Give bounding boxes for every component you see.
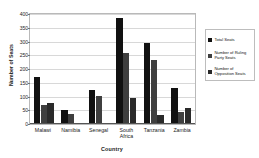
bar xyxy=(116,18,122,124)
bar xyxy=(171,88,177,124)
bar-group xyxy=(140,14,168,124)
y-tick-label: 150 xyxy=(20,80,28,86)
legend-swatch-icon xyxy=(208,70,212,74)
plot-area: 050100150200250300350400 xyxy=(29,13,196,125)
bar xyxy=(144,43,150,124)
x-tick-label: Namibia xyxy=(57,127,85,139)
bar xyxy=(123,53,129,125)
legend-swatch-icon xyxy=(208,38,212,42)
bar-groups xyxy=(30,14,195,124)
bar xyxy=(151,60,157,124)
x-axis-line xyxy=(30,123,195,124)
legend-item: Total Seats xyxy=(208,32,252,48)
legend-label: Total Seats xyxy=(214,38,234,43)
x-axis-tick-labels: MalawiNamibiaSenegalSouth AfricaTanzania… xyxy=(29,127,196,139)
legend-item: Number of Opposition Seats xyxy=(208,64,252,80)
bar-group xyxy=(113,14,141,124)
bar xyxy=(47,103,53,124)
legend-label: Number of Opposition Seats xyxy=(214,67,252,76)
y-tick-label: 350 xyxy=(20,25,28,31)
bar-group xyxy=(58,14,86,124)
chart-legend: Total Seats Number of Ruling Party Seats… xyxy=(205,29,255,81)
legend-swatch-icon xyxy=(208,54,212,58)
y-tick-label: 100 xyxy=(20,94,28,100)
legend-item: Number of Ruling Party Seats xyxy=(208,48,252,64)
y-tick-label: 400 xyxy=(20,11,28,17)
y-tick-label: 200 xyxy=(20,66,28,72)
legend-label: Number of Ruling Party Seats xyxy=(214,51,252,60)
bar xyxy=(89,90,95,124)
x-tick-label: Zambia xyxy=(168,127,196,139)
bar-group xyxy=(30,14,58,124)
y-tick-mark xyxy=(28,124,30,125)
x-tick-label: South Africa xyxy=(112,127,140,139)
x-tick-label: Tanzania xyxy=(140,127,168,139)
bar xyxy=(130,98,136,124)
bar xyxy=(96,96,102,124)
x-axis-label: Country xyxy=(22,146,202,152)
y-tick-label: 300 xyxy=(20,39,28,45)
x-tick-label: Malawi xyxy=(29,127,57,139)
bar xyxy=(61,110,67,124)
y-tick-label: 50 xyxy=(22,107,28,113)
bar xyxy=(34,77,40,124)
bar-chart: Number of Seats 050100150200250300350400… xyxy=(0,0,259,158)
bar xyxy=(185,108,191,125)
bar xyxy=(41,105,47,124)
y-tick-label: 250 xyxy=(20,52,28,58)
y-axis-label: Number of Seats xyxy=(8,20,14,110)
y-tick-label: 0 xyxy=(25,121,28,127)
x-tick-label: Senegal xyxy=(85,127,113,139)
bar-group xyxy=(85,14,113,124)
bar-group xyxy=(168,14,196,124)
